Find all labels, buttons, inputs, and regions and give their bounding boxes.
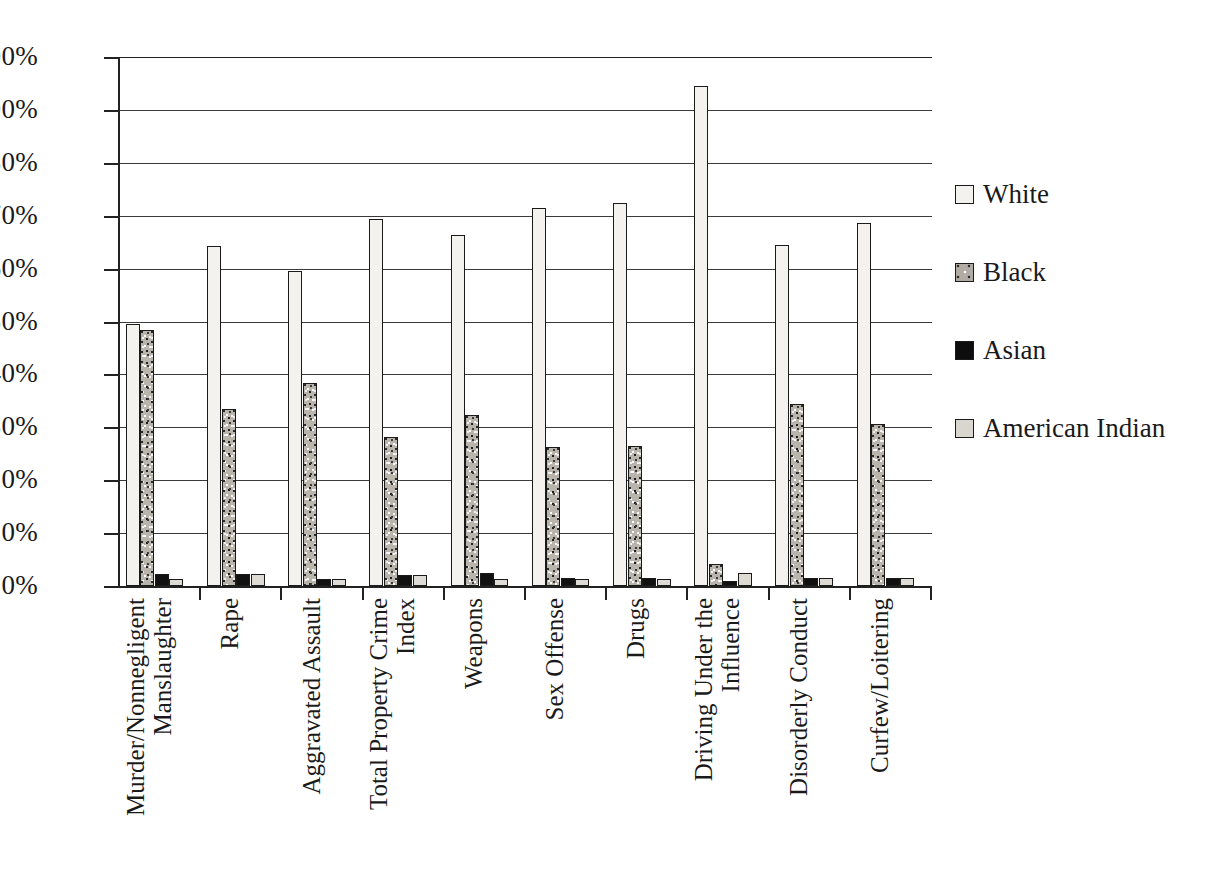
y-axis-tick-label: 60% <box>0 255 38 282</box>
legend-swatch-icon <box>955 185 974 204</box>
y-axis-tick-label: 90% <box>0 96 38 123</box>
x-axis-tick-mark <box>280 586 282 600</box>
bar <box>369 219 383 586</box>
category-label-line: Manslaughter <box>149 598 176 878</box>
bar <box>709 564 723 586</box>
x-axis-category-label: Murder/NonnegligentManslaughter <box>122 598 176 878</box>
x-axis-tick-mark <box>362 586 364 600</box>
bar <box>532 208 546 586</box>
legend-label: Black <box>983 258 1046 286</box>
bar-group <box>532 57 590 586</box>
legend-label: American Indian <box>983 414 1165 442</box>
x-axis-category-label: Disorderly Conduct <box>785 598 812 878</box>
y-axis-tick-mark <box>104 480 118 482</box>
x-axis-tick-mark <box>443 586 445 600</box>
x-axis-category-label: Total Property CrimeIndex <box>365 598 419 878</box>
bar <box>857 223 871 586</box>
x-axis-tick-mark <box>930 586 932 600</box>
x-axis-tick-mark <box>768 586 770 600</box>
bar-group <box>775 57 833 586</box>
bar <box>738 573 752 586</box>
category-label-line: Sex Offense <box>541 598 568 878</box>
x-axis-category-label: Rape <box>216 598 243 878</box>
bar <box>413 575 427 586</box>
bar <box>694 86 708 586</box>
category-label-line: Drugs <box>622 598 649 878</box>
bar <box>613 203 627 586</box>
bar <box>790 404 804 586</box>
legend-label: Asian <box>983 336 1046 364</box>
legend-item[interactable]: White <box>955 155 1215 233</box>
legend-item[interactable]: Asian <box>955 311 1215 389</box>
bar <box>332 579 346 586</box>
bar-group <box>451 57 509 586</box>
x-axis-tick-mark <box>686 586 688 600</box>
legend: WhiteBlackAsianAmerican Indian <box>955 155 1215 467</box>
bar <box>155 574 169 586</box>
legend-swatch-icon <box>955 341 974 360</box>
category-label-line: Disorderly Conduct <box>785 598 812 878</box>
category-label-line: Weapons <box>460 598 487 878</box>
bar <box>465 415 479 586</box>
bar <box>546 447 560 586</box>
x-axis-tick-mark <box>524 586 526 600</box>
legend-label: White <box>983 180 1049 208</box>
bar-group <box>857 57 915 586</box>
x-axis-category-label: Drugs <box>622 598 649 878</box>
x-axis-category-label: Curfew/Loitering <box>866 598 893 878</box>
x-axis-category-label: Weapons <box>460 598 487 878</box>
bar <box>900 578 914 586</box>
x-axis-category-label: Driving Under theInfluence <box>690 598 744 878</box>
x-axis-tick-mark <box>199 586 201 600</box>
bar <box>886 578 900 586</box>
y-axis-tick-label: 40% <box>0 360 38 387</box>
bar <box>575 579 589 586</box>
category-label-line: Aggravated Assault <box>298 598 325 878</box>
plot-area <box>118 57 932 588</box>
y-axis-tick-label: 80% <box>0 149 38 176</box>
bar-group <box>207 57 265 586</box>
category-label-line: Murder/Nonnegligent <box>122 598 149 878</box>
bar-group <box>613 57 671 586</box>
y-axis-tick-mark <box>104 163 118 165</box>
x-axis-category-label: Sex Offense <box>541 598 568 878</box>
bar <box>140 330 154 586</box>
y-axis-tick-label: 20% <box>0 466 38 493</box>
bar <box>288 271 302 586</box>
bar <box>642 578 656 586</box>
bar <box>819 578 833 586</box>
bar <box>169 579 183 586</box>
y-axis-tick-label: 30% <box>0 413 38 440</box>
y-axis-tick-mark <box>104 427 118 429</box>
y-axis-tick-mark <box>104 374 118 376</box>
legend-swatch-icon <box>955 419 974 438</box>
bar <box>384 437 398 586</box>
y-axis-tick-mark <box>104 586 118 588</box>
category-label-line: Rape <box>216 598 243 878</box>
legend-item[interactable]: American Indian <box>955 389 1215 467</box>
bar <box>236 574 250 586</box>
bar <box>451 235 465 586</box>
bar <box>303 383 317 586</box>
y-axis-tick-label: 0% <box>0 572 38 599</box>
bar-group <box>126 57 184 586</box>
y-axis-tick-mark <box>104 322 118 324</box>
category-label-line: Index <box>392 598 419 878</box>
y-axis-tick-mark <box>104 110 118 112</box>
bar <box>804 578 818 586</box>
bar <box>207 246 221 586</box>
x-axis-tick-mark <box>605 586 607 600</box>
x-axis-tick-mark <box>849 586 851 600</box>
bar <box>775 245 789 586</box>
bar <box>628 446 642 586</box>
bar <box>657 579 671 586</box>
y-axis-tick-label: 70% <box>0 202 38 229</box>
category-label-line: Driving Under the <box>690 598 717 878</box>
legend-swatch-icon <box>955 263 974 282</box>
bar <box>871 424 885 586</box>
bar-chart: 0%10%20%30%40%50%60%70%80%90%100% Murder… <box>0 0 1224 889</box>
y-axis-tick-label: 100% <box>0 43 38 70</box>
legend-item[interactable]: Black <box>955 233 1215 311</box>
y-axis-tick-label: 50% <box>0 308 38 335</box>
y-axis-tick-label: 10% <box>0 519 38 546</box>
